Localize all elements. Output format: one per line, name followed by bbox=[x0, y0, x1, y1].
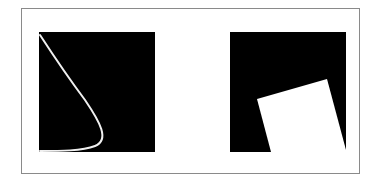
left-panel bbox=[39, 32, 155, 152]
left-black-square bbox=[39, 32, 155, 152]
right-panel bbox=[230, 32, 346, 152]
figure-canvas bbox=[0, 0, 382, 188]
